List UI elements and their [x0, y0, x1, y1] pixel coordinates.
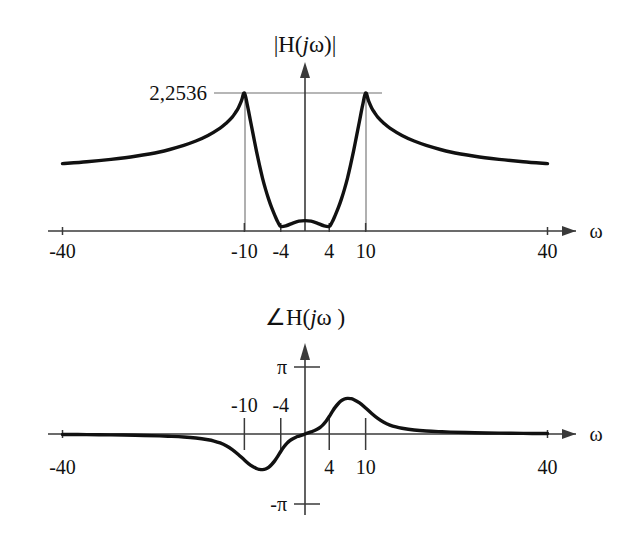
magnitude-x-axis-arrow	[562, 226, 576, 236]
phase-title-post: ω )	[317, 305, 346, 330]
phase-y-tick-label-minus-pi: -π	[270, 493, 287, 515]
phase-x-axis-arrow	[562, 429, 576, 439]
phase-axis-label: ω	[589, 423, 602, 445]
magnitude-title-pre: |H(	[274, 32, 303, 57]
magnitude-plot-title: |H(jω)|	[274, 32, 337, 57]
magnitude-title-post: ω)|	[309, 32, 336, 57]
phase-tick-label-minus10: -10	[231, 394, 258, 416]
phase-plot-title: ∠H(jω )	[265, 305, 345, 330]
phase-title-pre: ∠H(	[265, 305, 310, 330]
frequency-response-figure: |H(jω)| 2,2536 -40-10-441040 ω ∠H(jω )	[0, 0, 639, 545]
magnitude-tick-label-minus40: -40	[49, 240, 76, 262]
phase-tick-label-minus4: -4	[272, 394, 289, 416]
magnitude-tick-label-4: 4	[324, 240, 334, 262]
phase-y-tick-label-pi: π	[277, 356, 287, 378]
magnitude-plot: |H(jω)| 2,2536 -40-10-441040 ω	[0, 0, 639, 278]
magnitude-tick-label-minus4: -4	[272, 240, 289, 262]
phase-y-axis-arrow	[300, 343, 310, 360]
phase-tick-label-10: 10	[356, 456, 376, 478]
magnitude-tick-label-40: 40	[538, 240, 558, 262]
phase-tick-label-40: 40	[538, 456, 558, 478]
magnitude-tick-label-10: 10	[356, 240, 376, 262]
magnitude-y-axis-arrow	[300, 62, 310, 78]
magnitude-tick-label-minus10: -10	[231, 240, 258, 262]
peak-value-label: 2,2536	[149, 81, 207, 105]
magnitude-tick-labels: -40-10-441040	[49, 240, 557, 262]
phase-tick-label-4: 4	[324, 456, 334, 478]
phase-plot: ∠H(jω ) π -π -40-10-441040 ω	[0, 280, 639, 545]
phase-tick-label-minus40: -40	[49, 456, 76, 478]
magnitude-axis-label: ω	[589, 220, 602, 242]
